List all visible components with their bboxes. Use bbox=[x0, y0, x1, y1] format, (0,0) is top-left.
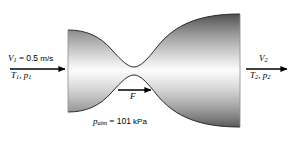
outlet-pressure-subscript: 2 bbox=[267, 73, 270, 80]
force-symbol: F bbox=[130, 91, 136, 101]
inlet-pressure-subscript: 1 bbox=[28, 73, 31, 80]
atmospheric-pressure-subscript: atm bbox=[98, 119, 108, 126]
nozzle-diagram: V1 = 0.5 m/s T1, p1 V2 T2, p2 F patm = 1… bbox=[0, 0, 294, 144]
outlet-velocity-subscript: 2 bbox=[265, 56, 268, 63]
force-label: F bbox=[130, 92, 136, 101]
outlet-velocity-label: V2 bbox=[259, 54, 268, 64]
outlet-state-label: T2, p2 bbox=[250, 71, 270, 81]
inlet-velocity-value: 0.5 bbox=[26, 53, 38, 63]
inlet-velocity-label: V1 = 0.5 m/s bbox=[8, 54, 53, 64]
atmospheric-pressure-equals: = bbox=[107, 116, 117, 126]
inlet-state-label: T1, p1 bbox=[11, 71, 31, 81]
inlet-velocity-equals: = bbox=[17, 53, 27, 63]
inlet-velocity-unit: m/s bbox=[40, 54, 53, 63]
nozzle-body bbox=[68, 14, 240, 127]
atmospheric-pressure-value: 101 bbox=[117, 116, 131, 126]
atmospheric-pressure-unit: kPa bbox=[133, 117, 147, 126]
atmospheric-pressure-label: patm = 101 kPa bbox=[93, 117, 147, 127]
